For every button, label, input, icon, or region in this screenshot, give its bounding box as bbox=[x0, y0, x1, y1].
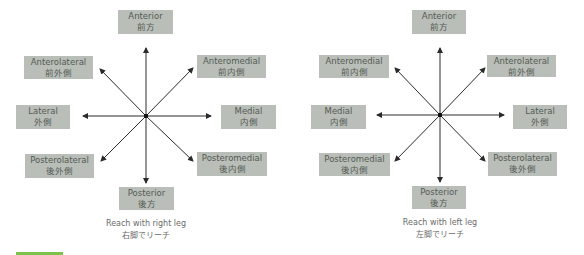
box-right: Medial 内側 bbox=[221, 105, 276, 129]
caption-ja: 左脚でリーチ bbox=[360, 229, 520, 241]
label-en: Posterior bbox=[412, 187, 466, 198]
box-anterior: Anterior 前方 bbox=[118, 10, 173, 34]
label-ja: 内側 bbox=[221, 117, 276, 128]
label-en: Posterolateral bbox=[488, 153, 557, 164]
label-en: Anteromedial bbox=[319, 56, 389, 67]
arrow-posterolateral bbox=[440, 115, 485, 161]
arrow-posteromedial bbox=[395, 115, 440, 161]
label-ja: 前方 bbox=[118, 22, 173, 33]
caption-en: Reach with left leg bbox=[360, 217, 520, 229]
label-ja: 後方 bbox=[412, 198, 466, 209]
label-en: Medial bbox=[221, 106, 276, 117]
label-ja: 前内側 bbox=[197, 67, 266, 78]
caption-ja: 右脚でリーチ bbox=[66, 230, 226, 242]
label-en: Anterolateral bbox=[24, 57, 93, 68]
box-lower-left: Posterolateral 後外側 bbox=[25, 154, 94, 178]
label-ja: 前内側 bbox=[319, 67, 389, 78]
box-lower-right: Posterolateral 後外側 bbox=[488, 152, 557, 176]
left-leg-diagram: Anterior 前方 Anteromedial 前内側 Anterolater… bbox=[292, 0, 584, 255]
label-en: Lateral bbox=[16, 106, 70, 117]
caption: Reach with left leg 左脚でリーチ bbox=[360, 217, 520, 241]
label-ja: 外側 bbox=[16, 117, 70, 128]
label-en: Posteromedial bbox=[197, 153, 267, 164]
box-upper-left: Anteromedial 前内側 bbox=[319, 55, 389, 78]
arrow-posterolateral bbox=[101, 116, 146, 161]
label-ja: 外側 bbox=[513, 117, 567, 128]
right-leg-diagram: Anterior 前方 Anterolateral 前外側 Anteromedi… bbox=[0, 0, 292, 255]
box-anterior: Anterior 前方 bbox=[412, 10, 466, 34]
box-upper-right: Anteromedial 前内側 bbox=[197, 55, 266, 78]
label-ja: 前方 bbox=[412, 22, 466, 33]
label-en: Medial bbox=[311, 106, 366, 117]
label-ja: 後内側 bbox=[319, 165, 390, 176]
arrow-anteromedial bbox=[146, 68, 193, 116]
box-upper-left: Anterolateral 前外側 bbox=[24, 56, 93, 79]
caption: Reach with right leg 右脚でリーチ bbox=[66, 218, 226, 242]
label-ja: 後内側 bbox=[197, 164, 267, 175]
box-upper-right: Anterolateral 前外側 bbox=[487, 55, 556, 77]
box-posterior: Posterior 後方 bbox=[119, 187, 174, 210]
arrow-posteromedial bbox=[146, 116, 193, 161]
label-ja: 内側 bbox=[311, 117, 366, 128]
label-ja: 後方 bbox=[119, 199, 174, 210]
label-en: Posterolateral bbox=[25, 155, 94, 166]
arrow-anterolateral bbox=[100, 69, 146, 116]
label-ja: 後外側 bbox=[25, 166, 94, 177]
arrow-anterolateral bbox=[440, 68, 485, 115]
box-lower-left: Posteromedial 後内側 bbox=[319, 153, 390, 176]
box-left: Lateral 外側 bbox=[16, 105, 70, 129]
label-en: Lateral bbox=[513, 106, 567, 117]
label-en: Posterior bbox=[119, 188, 174, 199]
box-lower-right: Posteromedial 後内側 bbox=[197, 152, 267, 176]
label-en: Anterolateral bbox=[487, 56, 556, 67]
label-en: Anterior bbox=[412, 11, 466, 22]
caption-en: Reach with right leg bbox=[66, 218, 226, 230]
label-ja: 前外側 bbox=[487, 67, 556, 78]
center-point bbox=[438, 113, 442, 117]
label-en: Anteromedial bbox=[197, 56, 266, 67]
label-ja: 後外側 bbox=[488, 164, 557, 175]
center-point bbox=[144, 114, 148, 118]
label-en: Anterior bbox=[118, 11, 173, 22]
box-right: Lateral 外側 bbox=[513, 105, 567, 129]
arrow-anteromedial bbox=[395, 68, 440, 115]
box-posterior: Posterior 後方 bbox=[412, 186, 466, 209]
label-en: Posteromedial bbox=[319, 154, 390, 165]
label-ja: 前外側 bbox=[24, 68, 93, 79]
box-left: Medial 内側 bbox=[311, 105, 366, 129]
